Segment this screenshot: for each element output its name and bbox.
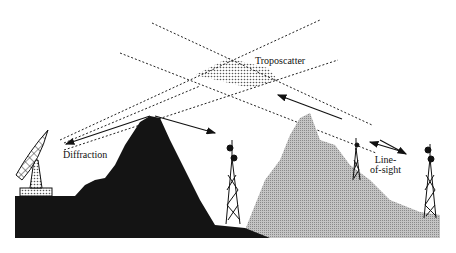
propagation-diagram: Troposcatter Diffraction Line- of-sight [0, 0, 456, 253]
radio-tower-icon [424, 144, 436, 218]
radio-tower-icon [353, 138, 360, 180]
diffraction-label: Diffraction [63, 150, 107, 160]
radio-tower-icon [226, 140, 240, 224]
light-mountain [245, 113, 440, 238]
troposcatter-beams [60, 20, 376, 153]
line-of-sight-label-line2: of-sight [370, 165, 401, 175]
troposcatter-label: Troposcatter [255, 56, 305, 66]
satellite-dish-icon [16, 130, 52, 196]
line-of-sight-label: Line- of-sight [370, 155, 401, 175]
dark-mountain [15, 116, 270, 238]
diagram-canvas [0, 0, 456, 253]
